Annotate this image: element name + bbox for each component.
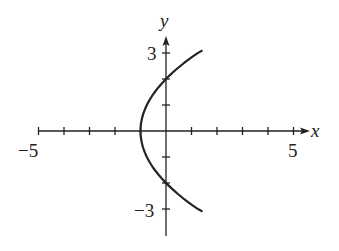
x-min-tick-label: −5 [18,140,38,161]
y-axis-label: y [158,10,169,31]
y-max-tick-label: 3 [147,43,157,64]
x-max-tick-label: 5 [288,140,298,161]
y-min-tick-label: −3 [134,200,154,221]
axes [39,36,311,236]
parabola-graph: y x −5 5 3 −3 [0,0,339,251]
x-axis-label: x [310,120,320,141]
